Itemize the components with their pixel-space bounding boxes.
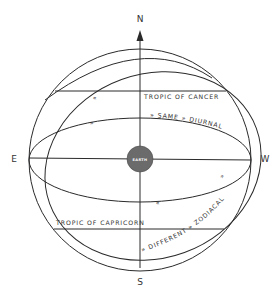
direction-marker-equator-front: «: [156, 199, 161, 206]
north-arrow-icon: [137, 30, 144, 41]
earth-label: EARTH: [133, 158, 148, 162]
west-label: W: [261, 154, 270, 164]
same-diurnal-label: » SAME » DIURNAL »: [0, 0, 227, 131]
north-label: N: [137, 14, 144, 24]
east-label: E: [11, 154, 17, 164]
tropic-of-cancer-label: TROPIC OF CANCER: [143, 93, 219, 100]
tropic-of-capricorn-label: TROPIC OF CAPRICORN: [55, 219, 145, 226]
direction-marker-ecliptic: »: [218, 172, 226, 180]
south-label: S: [137, 277, 143, 287]
direction-marker-equator-back: »: [90, 119, 95, 126]
direction-marker-cancer: «: [93, 94, 98, 101]
celestial-sphere-diagram: EARTH N S E W TROPIC OF CANCER TROPIC OF…: [0, 0, 279, 300]
